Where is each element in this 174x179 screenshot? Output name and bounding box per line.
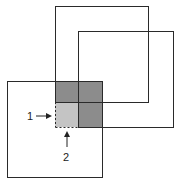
dark-overlap-region-right bbox=[78, 102, 102, 127]
overlap-diagram: 1 2 bbox=[0, 0, 174, 179]
label-2: 2 bbox=[63, 151, 69, 163]
arrow-1-head-icon bbox=[46, 113, 52, 119]
light-overlap-region bbox=[55, 102, 78, 127]
arrow-2-head-icon bbox=[64, 131, 70, 137]
label-1: 1 bbox=[27, 110, 33, 122]
